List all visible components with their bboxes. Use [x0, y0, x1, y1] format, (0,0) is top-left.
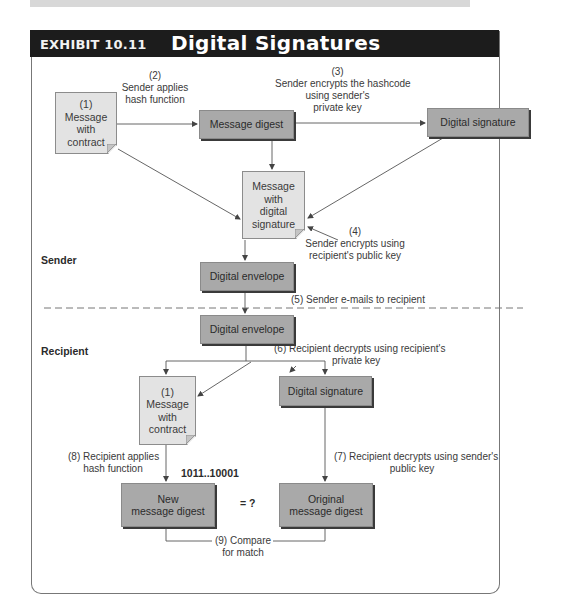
- step-2-label: (2) Sender applies hash function: [120, 70, 190, 106]
- step-text: private key: [275, 102, 400, 114]
- box-line: message digest: [289, 505, 363, 518]
- box-line: message digest: [131, 505, 205, 518]
- doc-line: with: [146, 411, 189, 424]
- recipient-digital-signature-box: Digital signature: [279, 376, 372, 406]
- compare-bracket-left: [166, 528, 212, 541]
- step-text: Sender applies: [120, 82, 190, 94]
- doc-line: digital: [252, 205, 295, 218]
- compare-bracket-right: [273, 528, 325, 541]
- page-fold-icon: [107, 144, 116, 153]
- step-num: (2): [120, 70, 190, 82]
- arrow-message-to-signed: [118, 149, 240, 219]
- message-digest-box: Message digest: [199, 110, 294, 139]
- step-text: recipient's public key: [305, 250, 405, 262]
- step-number: (1): [146, 386, 189, 399]
- step-text: (6) Recipient decrypts using recipient's: [274, 343, 445, 355]
- recipient-section-label: Recipient: [41, 345, 88, 357]
- doc-line: with: [252, 193, 295, 206]
- arrow-signature-to-signed: [308, 138, 443, 218]
- sender-digital-signature-box: Digital signature: [427, 108, 529, 137]
- arrow-diag-to-message: [198, 362, 251, 396]
- step-text: public key: [334, 463, 490, 475]
- step-text: Sender encrypts the hashcode: [275, 78, 400, 90]
- doc-line: contract: [146, 423, 189, 436]
- step-text: for match: [212, 547, 274, 559]
- page-fold-icon: [295, 229, 304, 238]
- recipient-digital-envelope-box: Digital envelope: [200, 315, 294, 344]
- step-text: (9) Compare: [212, 535, 274, 547]
- step-num: (3): [275, 66, 400, 78]
- step-number: (1): [65, 98, 108, 111]
- step-text: (8) Recipient applies: [68, 451, 158, 463]
- step-text: (7) Recipient decrypts using sender's: [334, 451, 490, 463]
- hash-value: 1011..10001: [181, 467, 239, 479]
- step-text: hash function: [68, 463, 158, 475]
- sender-digital-envelope-box: Digital envelope: [200, 262, 294, 291]
- doc-line: with: [65, 123, 108, 136]
- step-6-label: (6) Recipient decrypts using recipient's…: [274, 343, 445, 367]
- step-text: hash function: [120, 94, 190, 106]
- step-9-label: (9) Compare for match: [212, 535, 274, 559]
- original-message-digest-box: Original message digest: [279, 483, 373, 527]
- doc-line: Message: [65, 111, 108, 124]
- doc-line: Message: [252, 180, 295, 193]
- step-5-label: (5) Sender e-mails to recipient: [291, 294, 425, 306]
- page-fold-icon: [186, 435, 195, 444]
- step-7-label: (7) Recipient decrypts using sender's pu…: [334, 451, 490, 475]
- step-num: (4): [305, 226, 405, 238]
- box-line: Original: [289, 493, 363, 506]
- step-text: Sender encrypts using: [305, 238, 405, 250]
- step-3-label: (3) Sender encrypts the hashcode using s…: [275, 66, 400, 114]
- doc-line: signature: [252, 218, 295, 231]
- new-message-digest-box: New message digest: [121, 483, 215, 527]
- doc-line: Message: [146, 398, 189, 411]
- step-4-label: (4) Sender encrypts using recipient's pu…: [305, 226, 405, 262]
- step-text: private key: [274, 355, 445, 367]
- box-line: New: [131, 493, 205, 506]
- doc-line: contract: [65, 136, 108, 149]
- compare-symbol: = ?: [240, 497, 255, 509]
- step-text: using sender's: [275, 90, 400, 102]
- sender-section-label: Sender: [41, 254, 77, 266]
- step-8-label: (8) Recipient applies hash function: [68, 451, 158, 475]
